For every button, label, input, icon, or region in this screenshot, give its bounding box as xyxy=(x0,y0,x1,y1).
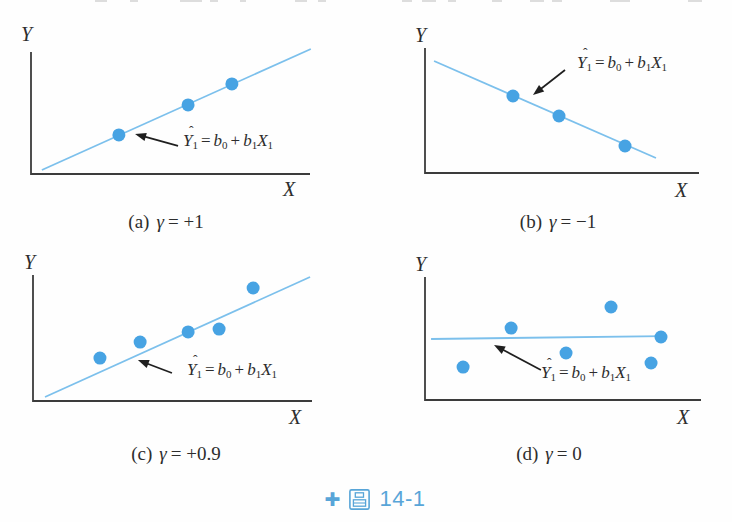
annotation-arrow-head xyxy=(135,133,147,141)
data-point xyxy=(654,331,667,344)
regression-line xyxy=(431,336,663,339)
equation-b0-sub: 0 xyxy=(222,139,228,151)
hat-accent: ˆ xyxy=(189,124,194,141)
equation-y-sub: 1 xyxy=(550,371,556,383)
equation-b1: b xyxy=(637,53,646,72)
regression-equation: ˆY1=b0+b1X1 xyxy=(183,130,273,151)
data-point xyxy=(213,323,226,336)
figure-char-icon xyxy=(349,489,370,510)
cropped-text-fragment xyxy=(130,0,138,2)
regression-equation: ˆY1=b0+b1X1 xyxy=(541,362,631,383)
regression-line xyxy=(434,61,656,158)
cropped-text-fragment xyxy=(240,0,246,2)
equation-y-sub: 1 xyxy=(196,368,202,380)
annotation-arrow-shaft xyxy=(502,349,541,370)
panel-caption-a: (a)γ= +1 xyxy=(71,211,261,234)
annotation-arrow-head xyxy=(533,85,544,95)
equation-y: Y xyxy=(541,363,550,382)
scatter-plot-d xyxy=(425,277,701,400)
equation-b0: b xyxy=(572,363,581,382)
scatter-plot-c xyxy=(33,275,312,401)
data-point xyxy=(457,361,470,374)
caption-value: = +1 xyxy=(168,211,204,232)
y-axis-label: Y xyxy=(24,252,35,272)
data-point xyxy=(605,301,618,314)
plus-sign: + xyxy=(589,363,599,382)
data-point xyxy=(560,347,573,360)
equation-x-sub: 1 xyxy=(662,61,668,73)
equation-b0-sub: 0 xyxy=(226,368,232,380)
cropped-text-fragment xyxy=(552,0,562,2)
cropped-text-fragment xyxy=(448,0,456,2)
data-point xyxy=(182,325,195,338)
equation-b0-sub: 0 xyxy=(580,371,586,383)
equation-x: X xyxy=(257,131,267,150)
x-axis-label: X xyxy=(283,179,295,199)
caption-tag: (c) xyxy=(131,443,152,464)
data-point xyxy=(619,140,632,153)
panel-c: Y X ˆY1=b0+b1X1 (c)γ= +0.9 xyxy=(0,0,732,522)
equation-b1: b xyxy=(601,363,610,382)
gamma-symbol: γ xyxy=(549,211,557,232)
axes xyxy=(31,52,310,174)
panel-caption-d: (d)γ= 0 xyxy=(454,443,644,466)
equation-x: X xyxy=(651,53,661,72)
plus-cross-icon: ✚ xyxy=(325,490,341,509)
regression-line xyxy=(42,49,311,170)
equation-b1: b xyxy=(243,131,252,150)
gamma-symbol: γ xyxy=(156,211,164,232)
equation-y: Y xyxy=(183,131,192,150)
equation-b0: b xyxy=(218,360,227,379)
caption-tag: (a) xyxy=(128,211,149,232)
data-point xyxy=(247,281,260,294)
caption-tag: (b) xyxy=(520,211,542,232)
cropped-text-fragment xyxy=(492,0,502,2)
annotation-arrow-shaft xyxy=(540,70,565,89)
equals-sign: = xyxy=(559,363,569,382)
panel-caption-b: (b)γ= −1 xyxy=(463,211,653,234)
caption-value: = 0 xyxy=(557,443,582,464)
x-axis-label: X xyxy=(675,180,687,200)
equation-x-sub: 1 xyxy=(268,139,274,151)
panel-caption-c: (c)γ= +0.9 xyxy=(81,443,271,466)
y-axis-label: Y xyxy=(21,24,32,44)
regression-equation: ˆY1=b0+b1X1 xyxy=(187,359,277,380)
figure-number: 14-1 xyxy=(379,488,425,510)
cropped-text-fragment xyxy=(210,0,218,2)
plus-sign: + xyxy=(625,53,635,72)
annotation-arrow-shaft xyxy=(146,363,172,373)
equals-sign: = xyxy=(595,53,605,72)
scatter-plot-b xyxy=(425,48,699,173)
data-point xyxy=(93,352,106,365)
equation-b0-sub: 0 xyxy=(616,61,622,73)
equation-y-sub: 1 xyxy=(586,61,592,73)
y-axis-label: Y xyxy=(415,25,426,45)
annotation-arrow-head xyxy=(494,345,506,354)
cropped-text-fragment xyxy=(688,0,702,2)
plus-sign: + xyxy=(235,360,245,379)
cropped-text-fragment xyxy=(422,0,436,2)
data-point xyxy=(134,336,147,349)
equation-x: X xyxy=(615,363,625,382)
caption-tag: (d) xyxy=(516,443,538,464)
data-point xyxy=(506,90,519,103)
x-axis-label: X xyxy=(289,407,301,427)
caption-value: = +0.9 xyxy=(171,443,221,464)
equation-b1-sub: 1 xyxy=(610,371,616,383)
data-point xyxy=(552,110,565,123)
equation-x-sub: 1 xyxy=(626,371,632,383)
cropped-text-fragment xyxy=(610,0,630,2)
scatter-plot-a xyxy=(31,52,310,174)
figure-caption: ✚ 14-1 xyxy=(0,484,732,514)
gamma-symbol: γ xyxy=(545,443,553,464)
plus-sign: + xyxy=(231,131,241,150)
equation-b0: b xyxy=(214,131,223,150)
data-point xyxy=(225,77,238,90)
panel-b: Y X ˆY1=b0+b1X1 (b)γ= −1 xyxy=(0,0,732,522)
equals-sign: = xyxy=(205,360,215,379)
equation-x: X xyxy=(261,360,271,379)
cropped-text-fragment xyxy=(530,0,544,2)
panel-d: Y X ˆY1=b0+b1X1 (d)γ= 0 xyxy=(0,0,732,522)
hat-accent: ˆ xyxy=(583,46,588,63)
regression-equation: ˆY1=b0+b1X1 xyxy=(577,52,667,73)
